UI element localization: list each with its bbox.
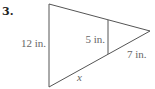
- problem-figure: 3. 12 in. 5 in. 7 in. x: [0, 0, 155, 89]
- outer-triangle: [49, 4, 150, 87]
- label-inner-segment: 5 in.: [85, 33, 105, 45]
- triangle-diagram: 12 in. 5 in. 7 in. x: [0, 0, 155, 89]
- label-bottom-variable: x: [76, 71, 82, 83]
- label-left-side: 12 in.: [21, 37, 46, 49]
- label-right-segment: 7 in.: [127, 48, 147, 60]
